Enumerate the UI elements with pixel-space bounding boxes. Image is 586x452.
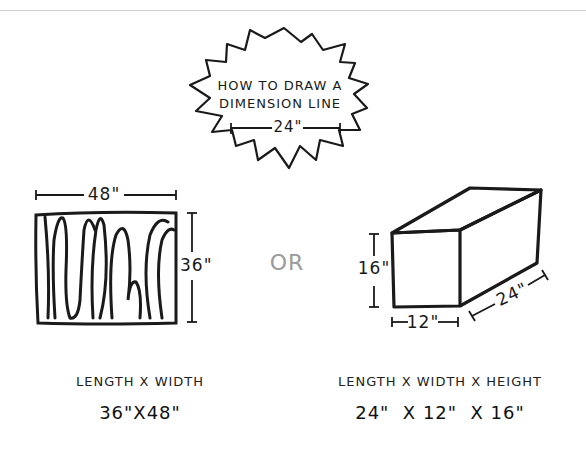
wood-panel-icon [36, 212, 176, 324]
left-width-label: 48" [84, 184, 124, 204]
right-formula-value: 24" X 12" X 16" [340, 402, 540, 423]
right-formula-label: LENGTH X WIDTH X HEIGHT [320, 374, 560, 389]
title-line-1: HOW TO DRAW A [215, 78, 345, 93]
example-dimension: 24" [270, 118, 306, 136]
box-width-label: 12" [406, 312, 440, 332]
box-height-label: 16" [356, 258, 392, 278]
title-line-2: DIMENSION LINE [210, 96, 350, 111]
left-height-label: 36" [180, 255, 210, 275]
left-formula-value: 36"X48" [70, 402, 210, 423]
left-formula-label: LENGTH X WIDTH [50, 374, 230, 389]
or-separator: OR [262, 250, 312, 275]
